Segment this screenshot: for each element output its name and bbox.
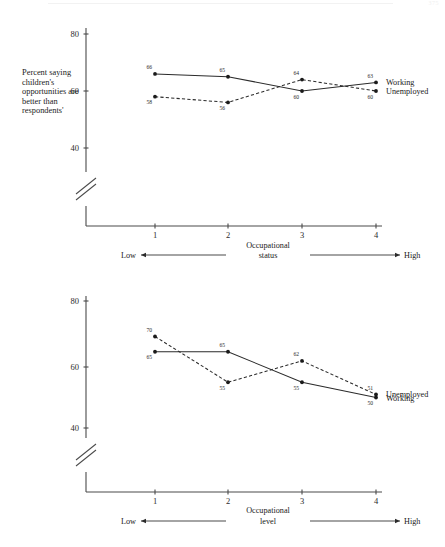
data-point: [374, 89, 378, 93]
x-axis-low-label: Low: [121, 251, 136, 260]
x-axis-high-label: High: [404, 251, 420, 260]
x-tick-label: 2: [226, 496, 230, 506]
data-point: [374, 393, 378, 397]
data-point: [153, 72, 157, 76]
data-point: [226, 75, 230, 79]
point-label: 51: [367, 385, 373, 391]
data-point: [300, 380, 304, 384]
chart-bottom: 80604012346570655555625051WorkingUnemplo…: [0, 280, 445, 547]
point-label: 55: [219, 385, 225, 391]
series-line-unemployed: [155, 337, 376, 395]
point-label: 65: [219, 67, 225, 73]
data-point: [374, 81, 378, 85]
point-label: 70: [146, 327, 152, 333]
x-axis-low-label: Low: [121, 517, 136, 526]
point-label: 65: [146, 354, 152, 360]
series-line-unemployed: [155, 80, 376, 103]
arrow-right-icon: [395, 519, 400, 523]
x-axis-caption-line2: status: [259, 251, 278, 260]
arrow-right-icon: [395, 253, 400, 257]
point-label: 58: [146, 99, 152, 105]
data-point: [226, 380, 230, 384]
arrow-left-icon: [141, 519, 146, 523]
point-label: 65: [219, 342, 225, 348]
series-line-working: [155, 74, 376, 91]
x-axis-caption-line1: Occupational: [246, 241, 290, 250]
x-tick-label: 4: [374, 496, 379, 506]
y-tick-label: 60: [71, 362, 80, 372]
x-axis-caption-line2: level: [260, 517, 277, 526]
x-tick-label: 3: [300, 496, 304, 506]
x-axis-caption-line1: Occupational: [246, 506, 290, 515]
x-axis-high-label: High: [404, 517, 420, 526]
point-label: 60: [293, 94, 299, 100]
point-label: 63: [367, 73, 373, 79]
x-tick-label: 1: [153, 496, 157, 506]
point-label: 55: [293, 385, 299, 391]
series-legend-label: Unemployed: [386, 390, 428, 399]
series-line-working: [155, 352, 376, 398]
chart-top: 80604012346658655660646360WorkingUnemplo…: [0, 0, 445, 280]
data-point: [226, 101, 230, 105]
y-tick-label: 40: [71, 143, 80, 153]
y-tick-label: 80: [71, 296, 80, 306]
x-tick-label: 4: [374, 230, 379, 240]
point-label: 50: [367, 400, 373, 406]
point-label: 66: [146, 64, 152, 70]
figure-bottom: Percent saying respondents' opportunitie…: [0, 280, 445, 547]
data-point: [153, 95, 157, 99]
series-legend-label: Unemployed: [386, 87, 428, 96]
y-tick-label: 60: [71, 86, 80, 96]
figure-top: Percent saying children's opportunities …: [0, 0, 445, 280]
data-point: [153, 335, 157, 339]
data-point: [153, 350, 157, 354]
y-tick-label: 40: [71, 423, 80, 433]
x-tick-label: 2: [226, 230, 230, 240]
data-point: [300, 359, 304, 363]
data-point: [300, 89, 304, 93]
y-tick-label: 80: [71, 29, 80, 39]
data-point: [300, 78, 304, 82]
x-tick-label: 1: [153, 230, 157, 240]
point-label: 64: [293, 70, 299, 76]
point-label: 60: [367, 94, 373, 100]
figure-page: 375 Percent saying children's opportunit…: [0, 0, 445, 547]
arrow-left-icon: [141, 253, 146, 257]
data-point: [226, 350, 230, 354]
point-label: 62: [293, 351, 299, 357]
x-tick-label: 3: [300, 230, 304, 240]
point-label: 56: [219, 105, 225, 111]
